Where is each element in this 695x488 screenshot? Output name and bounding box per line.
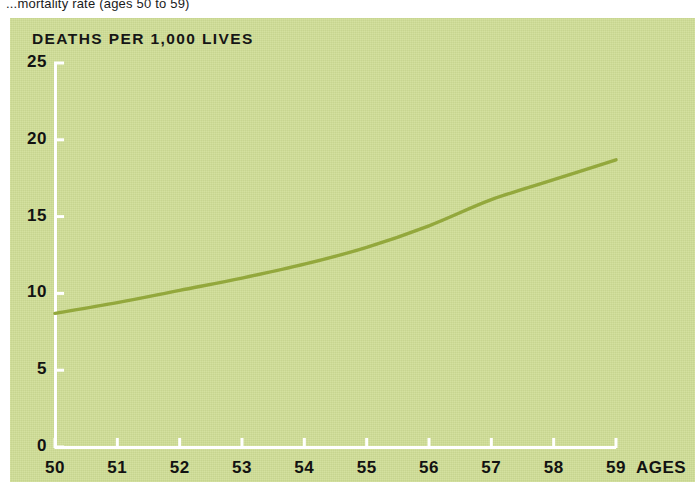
chart-panel: DEATHS PER 1,000 LIVES 0510152025 505152… <box>10 18 695 482</box>
x-tick-label: 51 <box>95 458 139 478</box>
chart-plot <box>10 18 695 482</box>
x-tick-label: 58 <box>532 458 576 478</box>
x-tick-label: 56 <box>407 458 451 478</box>
x-tick-label: 59 <box>594 458 638 478</box>
y-tick-label: 25 <box>13 52 47 72</box>
y-tick-label: 0 <box>13 436 47 456</box>
x-tick-label: 50 <box>33 458 77 478</box>
figure-caption: ...mortality rate (ages 50 to 59) <box>6 0 190 12</box>
x-axis-title: AGES <box>636 458 686 478</box>
mortality-curve <box>55 160 616 314</box>
y-tick-label: 10 <box>13 282 47 302</box>
y-tick-label: 15 <box>13 206 47 226</box>
x-tick-label: 55 <box>345 458 389 478</box>
x-tick-label: 57 <box>469 458 513 478</box>
x-tick-label: 52 <box>158 458 202 478</box>
y-tick-label: 20 <box>13 129 47 149</box>
x-tick-label: 54 <box>282 458 326 478</box>
y-tick-label: 5 <box>13 359 47 379</box>
x-tick-label: 53 <box>220 458 264 478</box>
